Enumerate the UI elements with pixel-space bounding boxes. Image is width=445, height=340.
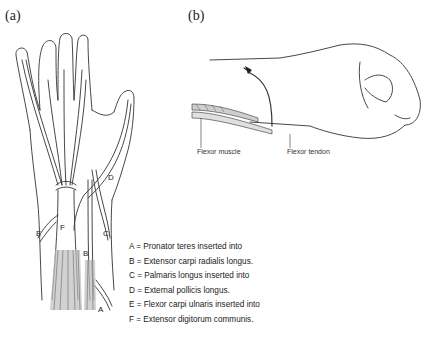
legend-item-e: E = Flexor carpi ulnaris inserted into [129, 298, 260, 313]
tendon-label-d: D [108, 173, 114, 182]
legend-item-b: B = Extensor carpi radialis longus. [129, 255, 260, 270]
tendon-legend: A = Pronator teres inserted into B = Ext… [129, 240, 260, 328]
flexor-tendon-caption: Flexor tendon [287, 148, 330, 155]
tendon-label-c: C [103, 229, 109, 238]
legend-item-f: F = Extensor digitorum communis. [129, 313, 260, 328]
tendon-label-e: E [36, 229, 41, 238]
legend-item-c: C = Palmaris longus inserted into [129, 269, 260, 284]
flexor-muscle-caption: Flexor muscle [197, 148, 241, 155]
legend-item-d: D = External pollicis longus. [129, 284, 260, 299]
tendon-label-f: F [60, 223, 65, 232]
tendon-label-b: B [83, 249, 88, 258]
legend-item-a: A = Pronator teres inserted into [129, 240, 260, 255]
tendon-label-a: A [98, 305, 104, 314]
